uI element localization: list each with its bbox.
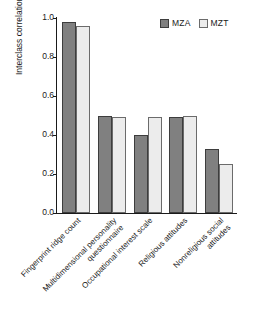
y-tick-label: 0.6 [42, 90, 54, 101]
x-tick-label: Nonreligious social attitudes [134, 216, 232, 314]
bar-chart-figure: Interclass correlations 0.00.20.40.60.81… [0, 0, 257, 332]
bar-mza[interactable] [62, 22, 76, 213]
bar-mzt[interactable] [183, 116, 197, 214]
bar-group [205, 18, 233, 213]
x-axis-line [56, 213, 237, 214]
bar-group [62, 18, 90, 213]
y-tick-label: 0.4 [42, 129, 54, 140]
legend-label-mzt: MZT [211, 18, 229, 28]
bar-mzt[interactable] [112, 117, 126, 213]
bar-group [169, 18, 197, 213]
bar-mzt[interactable] [148, 117, 162, 213]
bar-group [134, 18, 162, 213]
bar-mza[interactable] [205, 149, 219, 213]
legend-swatch-mzt-icon [199, 19, 208, 28]
bar-mza[interactable] [98, 116, 112, 214]
y-tick-label: 0.0 [42, 207, 54, 218]
bar-mzt[interactable] [76, 26, 90, 213]
y-tick-label: 0.8 [42, 51, 54, 62]
plot-area: 0.00.20.40.60.81.0 [57, 18, 236, 213]
legend-item-mzt: MZT [199, 18, 229, 28]
legend-label-mza: MZA [172, 18, 191, 28]
y-tick-label: 0.2 [42, 168, 54, 179]
bar-mza[interactable] [134, 135, 148, 213]
legend-swatch-mza-icon [160, 19, 169, 28]
chart-legend: MZA MZT [160, 18, 229, 28]
bar-mza[interactable] [169, 117, 183, 213]
y-tick-label: 1.0 [42, 12, 54, 23]
bar-mzt[interactable] [219, 164, 233, 213]
legend-item-mza: MZA [160, 18, 191, 28]
y-axis-title-text: Interclass correlations [14, 0, 24, 75]
bar-group [98, 18, 126, 213]
